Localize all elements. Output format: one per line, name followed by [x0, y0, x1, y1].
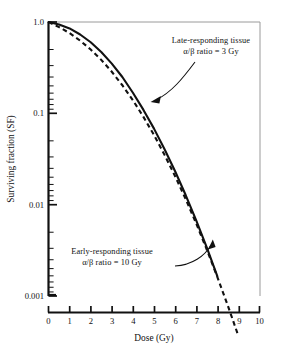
svg-text:7: 7	[195, 316, 200, 326]
svg-text:1: 1	[68, 316, 72, 326]
svg-text:8: 8	[216, 316, 220, 326]
svg-text:9: 9	[237, 316, 241, 326]
y-tick-label-01: 0.1	[33, 108, 44, 118]
y-axis-title: Surviving fraction (SF)	[6, 115, 17, 203]
svg-text:6: 6	[174, 316, 179, 326]
annotation-late-responding: Late-responding tissue α/β ratio = 3 Gy	[150, 36, 272, 57]
y-tick-label-1: 1.0	[33, 17, 44, 27]
annotation-late-line2: α/β ratio = 3 Gy	[150, 47, 272, 58]
svg-text:5: 5	[152, 316, 156, 326]
y-tick-label-0001: 0.001	[25, 291, 44, 301]
annotation-early-line1: Early-responding tissue	[48, 247, 176, 258]
x-axis-title: Dose (Gy)	[134, 333, 173, 344]
svg-text:0: 0	[46, 316, 50, 326]
svg-text:4: 4	[131, 316, 136, 326]
y-tick-label-001: 0.01	[29, 200, 44, 210]
annotation-early-line2: α/β ratio = 10 Gy	[48, 258, 176, 269]
svg-text:2: 2	[89, 316, 93, 326]
svg-text:3: 3	[110, 316, 114, 326]
annotation-late-line1: Late-responding tissue	[150, 36, 272, 47]
svg-text:10: 10	[255, 316, 264, 326]
figure-container: 1.0 0.1 0.01 0.001 Surviving fraction (S…	[0, 0, 303, 352]
annotation-early-responding: Early-responding tissue α/β ratio = 10 G…	[48, 247, 176, 268]
